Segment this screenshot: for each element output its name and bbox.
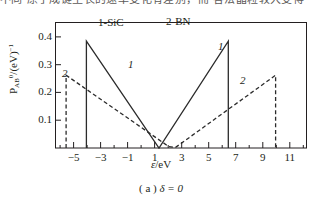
y-tick-label: 0.3	[20, 58, 52, 70]
x-tick-label: 1	[143, 151, 167, 163]
x-tick-label: −1	[116, 151, 140, 163]
y-axis-unit-exponent: −1	[7, 44, 15, 51]
x-tick-label: −5	[62, 151, 86, 163]
y-tick-label: 0.2	[20, 85, 52, 97]
annotation-curve1-right: 1	[218, 40, 224, 52]
y-axis-ticks	[56, 37, 61, 120]
x-tick-label: 7	[224, 151, 248, 163]
y-axis-title: PAB0/(eV)−1	[7, 29, 21, 109]
legend-item-sic: 1-SiC	[98, 16, 124, 28]
annotation-curve2-left: 2	[62, 67, 68, 79]
annotation-curve1-left: 1	[128, 58, 134, 70]
caption-index: ( a )	[139, 182, 157, 194]
y-tick-label: 0.1	[20, 113, 52, 125]
caption-condition: δ = 0	[159, 182, 183, 194]
annotation-curve2-right: 2	[240, 74, 246, 86]
x-tick-label: 3	[170, 151, 194, 163]
y-axis-symbol: P	[7, 88, 19, 94]
x-tick-label: −3	[89, 151, 113, 163]
x-tick-label: 9	[251, 151, 275, 163]
y-axis-unit: /(eV)	[7, 51, 19, 74]
y-tick-label: 0.4	[20, 30, 52, 42]
x-tick-label: 5	[197, 151, 221, 163]
figure-caption: ( a ) δ = 0	[0, 182, 322, 194]
series-line-bn	[66, 75, 276, 148]
series-line-sic	[86, 41, 228, 148]
plot-frame	[56, 23, 307, 149]
figure-panel: 1-SiC 2-BN 1 2 1 2 ε/eV PAB0/(eV)−1 −5−3…	[0, 0, 322, 204]
legend-item-bn: 2-BN	[166, 15, 190, 27]
y-axis-superscript: 0	[7, 75, 15, 79]
x-tick-label: 11	[278, 151, 302, 163]
